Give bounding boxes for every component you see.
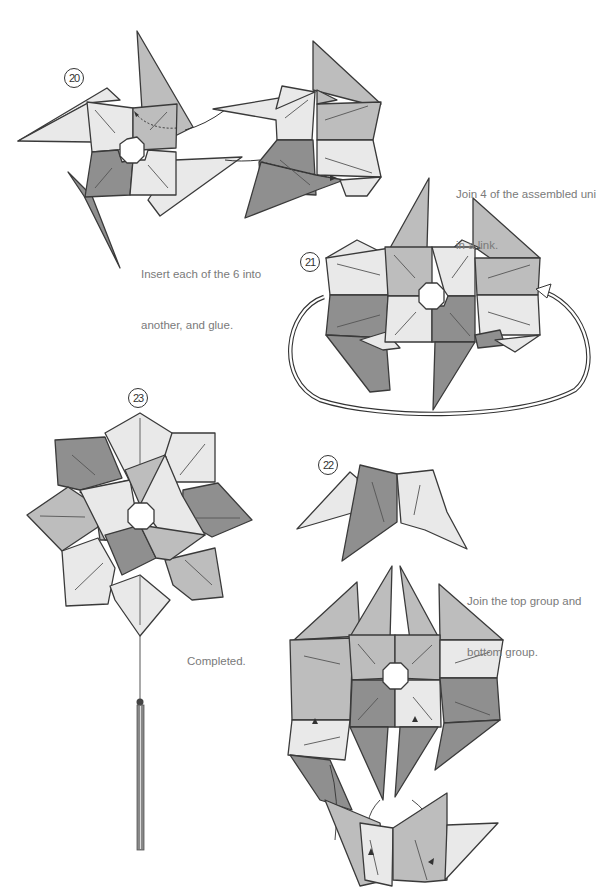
step20-caption: Insert each of the 6 into another, and g…	[141, 232, 261, 351]
step21-caption-line2: in a link.	[456, 237, 596, 254]
step-number-20: 20	[64, 68, 84, 88]
step22-top-group	[297, 465, 467, 561]
step22-caption: Join the top group and bottom group.	[467, 559, 581, 678]
step23-caption-line1: Completed.	[187, 653, 246, 670]
step21-caption: Join 4 of the assembled uni in a link.	[456, 152, 596, 271]
step21-caption-line1: Join 4 of the assembled uni	[456, 186, 596, 203]
step20-caption-line1: Insert each of the 6 into	[141, 266, 261, 283]
step22-caption-line1: Join the top group and	[467, 593, 581, 610]
step-number-21: 21	[300, 252, 320, 272]
step20-unit-right	[213, 41, 381, 218]
step23-caption: Completed.	[187, 619, 246, 687]
step-number-23: 23	[128, 388, 148, 408]
step-number-22: 22	[318, 455, 338, 475]
step20-caption-line2: another, and glue.	[141, 317, 261, 334]
step22-caption-line2: bottom group.	[467, 644, 581, 661]
